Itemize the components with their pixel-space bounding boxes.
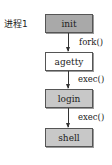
edge-label-exec-2: exec()	[78, 112, 104, 122]
arrow-init-to-agetty	[68, 33, 69, 51]
node-agetty: agetty	[45, 52, 93, 71]
node-login-label: login	[58, 94, 81, 104]
node-shell-label: shell	[58, 133, 80, 143]
arrow-agetty-to-login	[68, 71, 69, 88]
arrow-login-to-shell	[68, 108, 69, 127]
node-agetty-label: agetty	[55, 57, 84, 67]
node-shell: shell	[45, 128, 93, 147]
edge-label-exec-1: exec()	[78, 74, 104, 84]
node-init: init	[45, 14, 93, 33]
edge-label-fork: fork()	[79, 37, 103, 47]
node-init-label: init	[61, 19, 76, 29]
process-1-label: 进程1	[4, 17, 28, 30]
node-login: login	[45, 89, 93, 108]
